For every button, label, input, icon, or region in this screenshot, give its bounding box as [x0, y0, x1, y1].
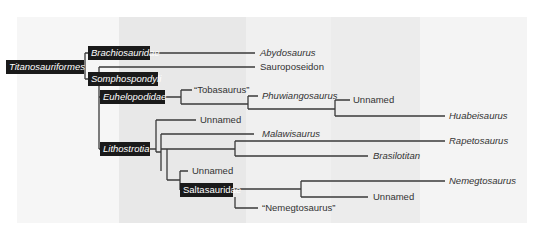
taxon-phuwiangosaurus: Phuwiangosaurus [262, 90, 338, 102]
taxon-tobasaurus: “Tobasaurus” [194, 84, 249, 96]
clade-titanosauriformes: Titanosauriformes [6, 60, 84, 74]
taxon-abydosaurus: Abydosaurus [260, 47, 315, 59]
clade-saltasauridae: Saltasauridae [180, 183, 233, 197]
clade-lithostrotia: Lithostrotia [100, 142, 150, 156]
taxon-unnamed-2: Unnamed [200, 114, 241, 126]
clade-euhelopodidae: Euhelopodidae [100, 90, 165, 104]
taxon-huabeisaurus: Huabeisaurus [449, 110, 508, 122]
taxon-nemegtosaurus-quoted: “Nemegtosaurus” [262, 202, 335, 214]
taxon-nemegtosaurus: Nemegtosaurus [449, 175, 516, 187]
clade-somphospondyli: Somphospondyli [88, 72, 158, 86]
taxon-rapetosaurus: Rapetosaurus [449, 135, 508, 147]
clade-brachiosauridae: Brachiosauridae [88, 46, 150, 60]
taxon-unnamed-4: Unnamed [373, 191, 414, 203]
taxon-sauroposeidon: Sauroposeidon [260, 61, 324, 73]
taxon-unnamed-1: Unnamed [353, 94, 394, 106]
taxon-malawisaurus: Malawisaurus [262, 128, 320, 140]
taxon-unnamed-3: Unnamed [192, 165, 233, 177]
taxon-brasilotitan: Brasilotitan [373, 150, 420, 162]
